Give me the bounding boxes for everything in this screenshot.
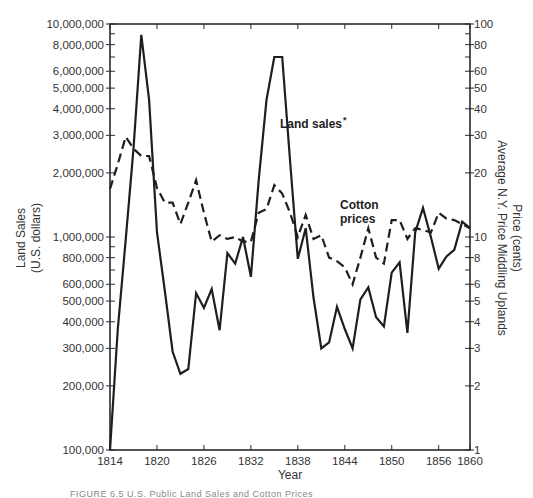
y-right-tick-label: 8: [474, 252, 480, 264]
y-right-tick-label: 100: [474, 18, 493, 30]
y-left-tick-label: 600,000: [62, 278, 104, 290]
y-right-tick-label: 2: [474, 380, 480, 392]
svg-text:Land sales: Land sales: [280, 117, 342, 131]
x-tick-label: 1844: [332, 455, 358, 467]
y-left-tick-label: 3,000,000: [53, 129, 104, 141]
y-right-tick-label: 4: [474, 316, 481, 328]
svg-text:*: *: [343, 115, 347, 125]
y-right-tick-label: 40: [474, 103, 487, 115]
x-axis: 181418201826183218381844185018561860: [97, 24, 483, 467]
y-left-tick-label: 200,000: [62, 380, 104, 392]
y-left-tick-label: 300,000: [62, 342, 104, 354]
y-right-tick-label: 80: [474, 39, 487, 51]
y-left-tick-label: 500,000: [62, 295, 104, 307]
x-tick-label: 1838: [285, 455, 311, 467]
y-right-tick-label: 30: [474, 129, 487, 141]
land-sales-annotation: Land sales *: [280, 115, 347, 131]
x-tick-label: 1832: [238, 455, 264, 467]
x-tick-label: 1820: [144, 455, 170, 467]
series-layer: [110, 35, 470, 450]
plot-frame: [110, 24, 470, 450]
y-left-axis-title: Land Sales (U.S. dollars): [14, 203, 43, 273]
x-axis-title: Year: [278, 468, 302, 482]
y-left-tick-label: 2,000,000: [53, 167, 104, 179]
y-right-tick-label: 20: [474, 167, 487, 179]
x-tick-label: 1856: [426, 455, 452, 467]
svg-text:Cotton: Cotton: [340, 198, 379, 212]
y-left-tick-label: 10,000,000: [46, 18, 104, 30]
y-left-tick-label: 5,000,000: [53, 82, 104, 94]
y-left-tick-label: 8,000,000: [53, 39, 104, 51]
svg-text:Average N.Y. Price Middling Up: Average N.Y. Price Middling Uplands: [495, 140, 509, 336]
y-right-tick-label: 10: [474, 231, 487, 243]
svg-text:(U.S. dollars): (U.S. dollars): [29, 203, 43, 273]
y-left-axis: 100,000200,000300,000400,000500,000600,0…: [46, 18, 115, 456]
x-tick-label: 1826: [191, 455, 217, 467]
plot-border: [110, 24, 470, 450]
svg-text:Price (cents): Price (cents): [510, 204, 524, 271]
cotton-prices-annotation: Cotton prices: [340, 198, 379, 226]
y-right-tick-label: 5: [474, 295, 480, 307]
land-sales-line: [110, 35, 470, 450]
y-right-axis-title: Price (cents) Average N.Y. Price Middlin…: [495, 140, 524, 336]
x-tick-label: 1814: [97, 455, 123, 467]
x-tick-label: 1850: [379, 455, 405, 467]
svg-text:prices: prices: [340, 212, 376, 226]
y-right-tick-label: 50: [474, 82, 487, 94]
figure-caption: FIGURE 6.5 U.S. Public Land Sales and Co…: [70, 489, 313, 498]
y-right-tick-label: 60: [474, 65, 487, 77]
chart: 100,000200,000300,000400,000500,000600,0…: [0, 0, 533, 498]
y-left-tick-label: 6,000,000: [53, 65, 104, 77]
svg-text:Land Sales: Land Sales: [14, 208, 28, 268]
y-right-tick-label: 3: [474, 342, 480, 354]
y-left-tick-label: 1,000,000: [53, 231, 104, 243]
y-right-tick-label: 6: [474, 278, 480, 290]
x-tick-label: 1860: [457, 455, 483, 467]
y-left-tick-label: 800,000: [62, 252, 104, 264]
y-left-tick-label: 400,000: [62, 316, 104, 328]
y-left-tick-label: 4,000,000: [53, 103, 104, 115]
